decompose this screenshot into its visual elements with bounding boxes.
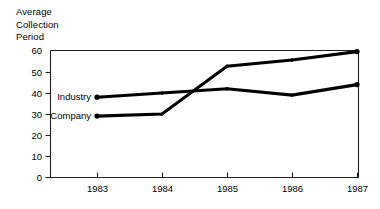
y-tick-label-10: 10 [31, 151, 42, 162]
series-industry [94, 82, 359, 100]
y-tick-label-40: 40 [31, 88, 42, 99]
data-point-industry-1986 [290, 93, 293, 96]
series-annotations: Industry Company [50, 91, 91, 121]
chart-figure: Average Collection Period 0 10 20 30 40 … [0, 0, 380, 209]
x-tick-label-1984: 1984 [152, 183, 173, 194]
y-axis-ticks: 0 10 20 30 40 50 60 [31, 45, 50, 183]
data-point-industry-1985 [225, 87, 228, 90]
x-axis-ticks: 1983 1984 1985 1986 1987 [87, 173, 368, 195]
series-industry-line [97, 85, 357, 98]
data-point-company-1984 [160, 112, 163, 115]
y-tick-label-60: 60 [31, 45, 42, 56]
y-tick-label-50: 50 [31, 67, 42, 78]
data-point-industry-1984 [160, 91, 163, 94]
x-tick-label-1986: 1986 [282, 183, 303, 194]
x-tick-label-1985: 1985 [217, 183, 238, 194]
y-tick-label-0: 0 [37, 172, 42, 183]
x-tick-label-1983: 1983 [87, 183, 108, 194]
data-point-industry-1983 [94, 95, 99, 100]
data-point-company-1986 [290, 58, 293, 61]
series-company-line [97, 52, 357, 117]
series-label-industry: Industry [57, 91, 91, 102]
y-tick-label-30: 30 [31, 109, 42, 120]
y-tick-label-20: 20 [31, 130, 42, 141]
x-tick-label-1987: 1987 [347, 183, 368, 194]
data-point-industry-1987 [354, 82, 359, 87]
series-label-company: Company [50, 110, 91, 121]
data-point-company-1985 [225, 65, 228, 68]
data-point-company-1983 [94, 114, 99, 119]
line-chart-plot: 0 10 20 30 40 50 60 1983 1984 1985 1986 [0, 0, 380, 209]
data-point-company-1987 [354, 49, 359, 54]
series-company [94, 49, 359, 119]
